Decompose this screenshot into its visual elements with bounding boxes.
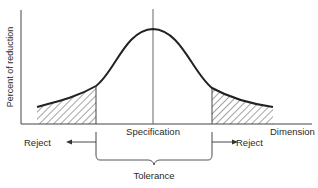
- diagram-canvas: [0, 0, 318, 188]
- tolerance-brace: [96, 155, 212, 165]
- right-reject-label: Reject: [236, 137, 263, 148]
- tolerance-diagram: Percent of reduction Specification Dimen…: [0, 0, 318, 188]
- x-axis-label: Dimension: [270, 126, 315, 137]
- tolerance-label: Tolerance: [133, 170, 174, 181]
- left-reject-arrow: [66, 140, 96, 145]
- left-reject-label: Reject: [24, 137, 51, 148]
- bell-curve: [37, 29, 273, 107]
- y-axis-label: Percent of reduction: [5, 27, 16, 108]
- right-reject-arrow: [212, 140, 238, 145]
- specification-label: Specification: [126, 126, 180, 137]
